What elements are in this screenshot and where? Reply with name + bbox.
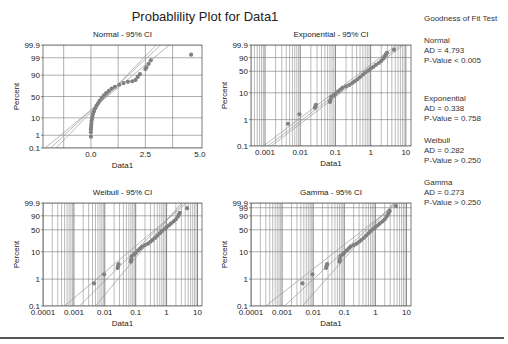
x-tick-label: 0.001: [64, 308, 85, 317]
y-tick-label: 90: [31, 71, 40, 80]
gof-heading: Goodness of Fit Test: [424, 14, 497, 23]
y-tick-label: 99.9: [232, 199, 248, 208]
subplot-title: Normal - 95% CI: [93, 30, 152, 39]
gof-exponential: Exponential AD = 0.338 P-Value = 0.758: [424, 94, 481, 124]
gof-pvalue: P-Value > 0.250: [424, 198, 481, 208]
y-tick-label: 90: [239, 212, 248, 221]
x-tick-label: 2.5: [140, 150, 152, 159]
x-axis-label: Data1: [320, 319, 342, 328]
y-tick-label: 99.9: [24, 199, 40, 208]
x-tick-label: 0.001: [272, 308, 293, 317]
y-tick-label: 99: [31, 54, 40, 63]
x-tick-label: 0.1: [339, 308, 351, 317]
y-tick-label: 10: [31, 114, 40, 123]
bottom-divider: [0, 337, 504, 339]
y-tick-label: 50: [31, 226, 40, 235]
x-tick-label: 1: [164, 308, 169, 317]
y-tick-label: 99.9: [232, 41, 248, 50]
x-tick-label: 0.01: [97, 308, 113, 317]
gof-gamma: Gamma AD = 0.273 P-Value > 0.250: [424, 178, 481, 208]
gof-normal: Normal AD = 4.793 P-Value < 0.005: [424, 36, 481, 66]
data-points: [89, 53, 193, 139]
plot-normal: 0.111050909999.90.02.55.0Normal - 95% CI…: [12, 30, 206, 170]
y-tick-label: 1: [244, 275, 249, 284]
y-tick-label: 10: [239, 248, 248, 257]
x-axis-label: Data1: [112, 319, 134, 328]
x-tick-label: 10: [401, 148, 410, 157]
y-axis-label: Percent: [220, 240, 229, 268]
subplot-title: Exponential - 95% CI: [293, 30, 368, 39]
gof-pvalue: P-Value > 0.250: [424, 156, 481, 166]
x-tick-label: 1: [373, 308, 378, 317]
x-tick-label: 0.001: [255, 148, 276, 157]
x-axis-label: Data1: [320, 159, 342, 168]
y-axis-label: Percent: [12, 82, 21, 110]
y-tick-label: 90: [31, 212, 40, 221]
x-tick-label: 10: [193, 308, 202, 317]
y-tick-label: 1: [36, 131, 41, 140]
y-tick-label: 90: [239, 54, 248, 63]
x-tick-label: 0.0001: [239, 308, 264, 317]
gof-dist-name: Gamma: [424, 178, 481, 188]
subplot-title: Gamma - 95% CI: [300, 188, 362, 197]
y-axis-label: Percent: [12, 240, 21, 268]
y-axis-label: Percent: [220, 81, 229, 109]
gof-pvalue: P-Value < 0.005: [424, 56, 481, 66]
plot-gamma: 0.111050909999.90.00010.0010.010.1110Gam…: [220, 188, 411, 328]
data-points: [300, 204, 398, 285]
gof-ad: AD = 0.282: [424, 146, 481, 156]
plot-exponential: 0.1110509099.90.0010.010.1110Exponential…: [220, 30, 411, 168]
y-tick-label: 10: [239, 89, 248, 98]
x-tick-label: 0.0001: [31, 308, 56, 317]
x-tick-label: 0.0: [85, 150, 97, 159]
y-tick-label: 99.9: [24, 41, 40, 50]
y-tick-label: 0.1: [29, 144, 41, 153]
x-tick-label: 0.1: [330, 148, 342, 157]
y-tick-label: 1: [36, 275, 41, 284]
data-points: [92, 206, 189, 285]
fit-ci-lines: [65, 203, 187, 306]
figure-title: Probablility Plot for Data1: [0, 9, 410, 24]
x-tick-label: 1: [368, 148, 373, 157]
y-tick-label: 10: [31, 248, 40, 257]
y-tick-label: 50: [239, 67, 248, 76]
x-tick-label: 10: [402, 308, 411, 317]
gof-weibull: Weibull AD = 0.282 P-Value > 0.250: [424, 136, 481, 166]
x-axis-label: Data1: [112, 161, 134, 170]
gof-dist-name: Exponential: [424, 94, 481, 104]
data-points: [286, 48, 396, 126]
subplot-title: Weibull - 95% CI: [93, 188, 152, 197]
y-tick-label: 1: [244, 116, 249, 125]
y-tick-label: 50: [31, 93, 40, 102]
plot-weibull: 0.1110509099.90.00010.0010.010.1110Weibu…: [12, 188, 202, 328]
gof-pvalue: P-Value = 0.758: [424, 114, 481, 124]
x-tick-label: 0.01: [292, 148, 308, 157]
x-tick-label: 0.1: [130, 308, 142, 317]
gof-ad: AD = 0.273: [424, 188, 481, 198]
x-tick-label: 0.01: [305, 308, 321, 317]
x-tick-label: 5.0: [194, 150, 206, 159]
y-tick-label: 0.1: [237, 142, 249, 151]
gof-ad: AD = 0.338: [424, 104, 481, 114]
gof-ad: AD = 4.793: [424, 46, 481, 56]
y-tick-label: 50: [239, 226, 248, 235]
gof-dist-name: Normal: [424, 36, 481, 46]
gof-dist-name: Weibull: [424, 136, 481, 146]
